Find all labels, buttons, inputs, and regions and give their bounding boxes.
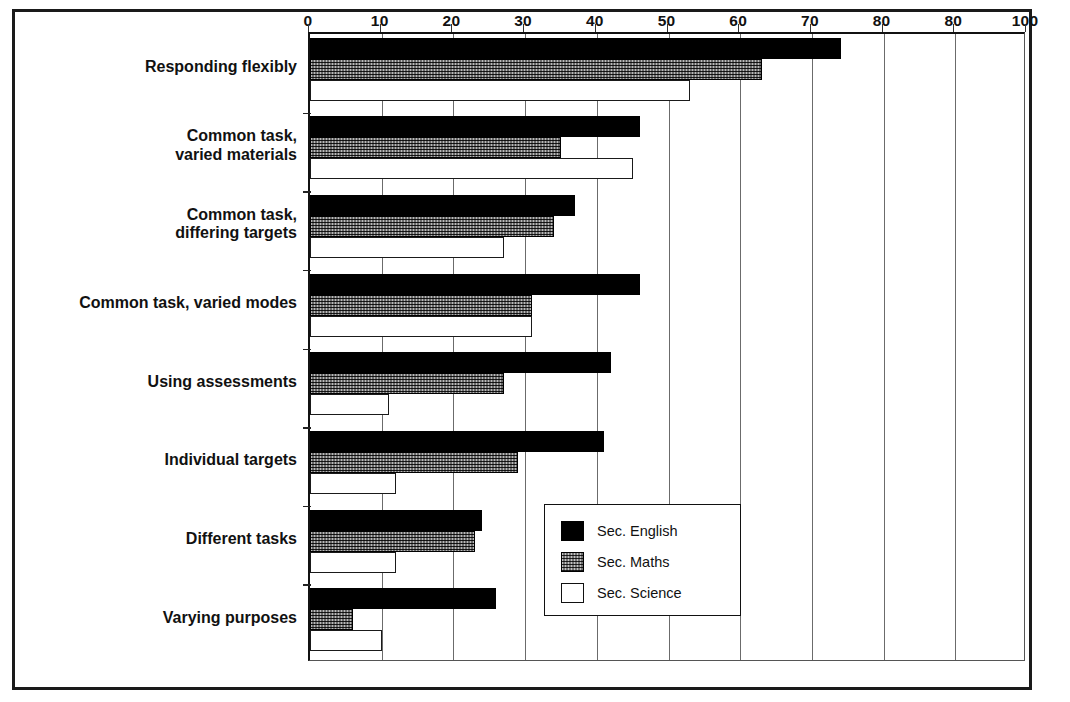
gridline-90 (955, 34, 956, 660)
legend-swatch-english (561, 521, 584, 541)
x-tick-mark-8 (882, 24, 883, 32)
bar-english-2 (310, 195, 575, 216)
category-label-3: Common task, varied modes (79, 294, 297, 313)
legend-row-2[interactable]: Sec. Science (561, 577, 740, 608)
bar-science-3 (310, 316, 532, 337)
x-tick-mark-6 (738, 24, 739, 32)
bar-english-4 (310, 352, 611, 373)
bar-english-0 (310, 38, 841, 59)
x-tick-mark-0 (308, 24, 309, 32)
x-axis-tick-labels: 0102030405060708080100 (308, 12, 1025, 32)
bar-english-3 (310, 274, 640, 295)
x-tick-mark-9 (953, 24, 954, 32)
bar-maths-4 (310, 373, 504, 394)
x-tick-mark-2 (451, 24, 452, 32)
x-tick-mark-4 (595, 24, 596, 32)
bar-maths-3 (310, 295, 532, 316)
y-tick-mark-6 (303, 506, 311, 508)
legend-label-0: Sec. English (597, 523, 678, 539)
y-tick-mark-7 (303, 584, 311, 586)
bar-maths-7 (310, 609, 353, 630)
gridline-70 (812, 34, 813, 660)
bar-maths-1 (310, 137, 561, 158)
x-tick-mark-3 (523, 24, 524, 32)
bar-science-0 (310, 80, 690, 101)
bar-science-4 (310, 394, 389, 415)
bar-science-6 (310, 552, 396, 573)
bar-science-2 (310, 237, 504, 258)
bar-maths-0 (310, 59, 762, 80)
bar-english-7 (310, 588, 496, 609)
category-label-2: Common task, differing targets (175, 206, 297, 244)
legend-label-1: Sec. Maths (597, 554, 670, 570)
y-tick-mark-2 (303, 191, 311, 193)
x-tick-mark-5 (667, 24, 668, 32)
bar-maths-2 (310, 216, 554, 237)
y-tick-mark-1 (303, 113, 311, 115)
y-tick-mark-3 (303, 270, 311, 272)
gridline-80 (884, 34, 885, 660)
bar-science-7 (310, 630, 382, 651)
legend-swatch-maths (561, 552, 584, 572)
bar-maths-5 (310, 452, 518, 473)
legend-row-0[interactable]: Sec. English (561, 515, 740, 546)
y-tick-mark-5 (303, 427, 311, 429)
y-axis-category-labels: Responding flexiblyCommon task, varied m… (15, 32, 303, 661)
bar-english-1 (310, 116, 640, 137)
x-tick-mark-10 (1025, 24, 1026, 32)
x-tick-mark-1 (380, 24, 381, 32)
legend-swatch-science (561, 583, 584, 603)
bar-maths-6 (310, 531, 475, 552)
bar-english-6 (310, 510, 482, 531)
bar-science-1 (310, 158, 633, 179)
category-label-0: Responding flexibly (145, 58, 297, 77)
category-label-4: Using assessments (148, 372, 297, 391)
category-label-7: Varying purposes (163, 608, 297, 627)
legend-label-2: Sec. Science (597, 585, 682, 601)
chart-outer-frame: 0102030405060708080100 Responding flexib… (12, 9, 1032, 690)
gridline-100 (1027, 34, 1028, 660)
bar-english-5 (310, 431, 604, 452)
category-label-1: Common task, varied materials (175, 127, 297, 165)
legend-row-1[interactable]: Sec. Maths (561, 546, 740, 577)
chart-legend: Sec. EnglishSec. MathsSec. Science (544, 504, 741, 616)
bar-science-5 (310, 473, 396, 494)
category-label-6: Different tasks (186, 530, 297, 549)
x-tick-mark-7 (810, 24, 811, 32)
y-tick-mark-4 (303, 349, 311, 351)
category-label-5: Individual targets (165, 451, 297, 470)
